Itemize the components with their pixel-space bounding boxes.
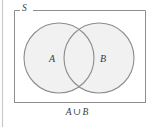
set-a-label: A <box>49 54 55 64</box>
universal-set-label: S <box>22 4 27 14</box>
caption-left-operand: A <box>66 107 72 117</box>
caption-union-operator: ∪ <box>72 107 83 117</box>
venn-diagram-figure: S A B A∪B <box>0 0 154 127</box>
set-b-label: B <box>100 54 106 64</box>
caption-right-operand: B <box>82 107 88 117</box>
figure-caption: A∪B <box>0 108 154 118</box>
